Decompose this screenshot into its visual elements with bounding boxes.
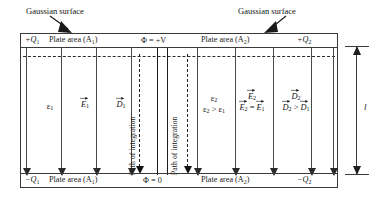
integration-path-arrow-left <box>139 54 140 172</box>
d-field-value-right: D2 <box>275 92 317 103</box>
top-plate-area-left: Plate area (A1) <box>49 36 97 45</box>
capacitor-diagram: Gaussian surface Gaussian surface +Q1 Pl… <box>0 0 382 199</box>
separation-dimension-arrow <box>356 47 357 174</box>
e-field-value-right: E2 <box>231 92 273 103</box>
field-line <box>26 48 27 175</box>
dielectric-interface-rule <box>157 48 158 175</box>
permittivity-relation-right: ε2 > ε1 <box>195 105 233 116</box>
d-field-label-right: D2 D2 > D1 <box>275 92 317 114</box>
d-field-label-left: D1 <box>107 100 135 111</box>
top-plate-potential: Φ = +V <box>141 36 166 44</box>
e-field-label-left: E1 <box>71 100 99 111</box>
integration-path-arrow-right <box>187 54 188 172</box>
field-line <box>96 48 97 175</box>
e-field-label-right: E2 E2 = E1 <box>231 92 273 114</box>
permittivity-value-right: ε2 <box>195 94 233 105</box>
top-plate: +Q1 Plate area (A1) Φ = +V Plate area (A… <box>21 34 337 48</box>
e-field-relation-right: E2 = E1 <box>231 103 273 114</box>
bottom-plate-charge-right: −Q2 <box>297 176 311 185</box>
field-line <box>333 48 334 175</box>
top-plate-charge-right: +Q2 <box>297 36 311 45</box>
field-line <box>273 48 274 175</box>
capacitor-body: +Q1 Plate area (A1) Φ = +V Plate area (A… <box>20 33 338 188</box>
d-field-relation-right: D2 > D1 <box>275 103 317 114</box>
bottom-plate: −Q1 Plate area (A1) Φ = 0 Plate area (A2… <box>21 173 337 187</box>
integration-path-label-left: Path of integration <box>128 117 137 175</box>
permittivity-label-left: ε1 <box>35 102 65 113</box>
gaussian-surface-dashed-line <box>23 56 335 57</box>
bottom-plate-potential: Φ = 0 <box>143 176 162 184</box>
top-plate-charge-left: +Q1 <box>25 36 39 45</box>
separation-dimension-label: l <box>364 102 367 112</box>
dielectric-interface-rule <box>167 48 168 175</box>
permittivity-label-right: ε2 ε2 > ε1 <box>195 94 233 116</box>
integration-path-label-right: Path of integration <box>170 117 179 175</box>
bottom-plate-charge-left: −Q1 <box>25 176 39 185</box>
bottom-plate-area-right: Plate area (A2) <box>201 176 249 185</box>
top-plate-area-right: Plate area (A2) <box>201 36 249 45</box>
bottom-plate-area-left: Plate area (A1) <box>49 176 97 185</box>
